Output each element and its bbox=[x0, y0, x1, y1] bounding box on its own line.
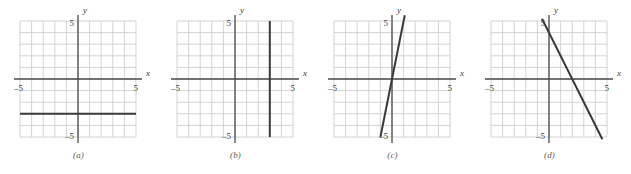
coordinate-plane: –555–5xy bbox=[471, 0, 628, 150]
y-min-tick-label: –5 bbox=[535, 131, 546, 141]
y-axis-label: y bbox=[396, 5, 401, 15]
graph-panel-2: –555–5xy(b) bbox=[157, 0, 314, 174]
y-min-tick-label: –5 bbox=[64, 131, 75, 141]
x-max-tick-label: 5 bbox=[448, 83, 453, 93]
x-axis-label: x bbox=[616, 68, 621, 78]
graph-panel-1: –555–5xy(a) bbox=[0, 0, 157, 174]
plot-svg: –555–5xy bbox=[471, 0, 628, 150]
axes bbox=[14, 15, 142, 143]
x-max-tick-label: 5 bbox=[134, 83, 139, 93]
y-axis-label: y bbox=[239, 5, 244, 15]
x-max-tick-label: 5 bbox=[291, 83, 296, 93]
x-min-tick-label: –5 bbox=[484, 83, 495, 93]
panel-caption: (c) bbox=[314, 150, 471, 160]
four-graph-figure: –555–5xy(a)–555–5xy(b)–555–5xy(c)–555–5x… bbox=[0, 0, 631, 174]
y-min-tick-label: –5 bbox=[378, 131, 389, 141]
x-max-tick-label: 5 bbox=[605, 83, 610, 93]
x-axis-label: x bbox=[145, 68, 150, 78]
y-max-tick-label: 5 bbox=[70, 18, 75, 28]
y-max-tick-label: 5 bbox=[541, 18, 546, 28]
panel-caption: (a) bbox=[0, 150, 157, 160]
x-min-tick-label: –5 bbox=[13, 83, 24, 93]
x-axis-label: x bbox=[302, 68, 307, 78]
y-min-tick-label: –5 bbox=[221, 131, 232, 141]
x-axis-label: x bbox=[459, 68, 464, 78]
coordinate-plane: –555–5xy bbox=[314, 0, 471, 150]
y-max-tick-label: 5 bbox=[227, 18, 232, 28]
coordinate-plane: –555–5xy bbox=[157, 0, 314, 150]
graph-panel-3: –555–5xy(c) bbox=[314, 0, 471, 174]
y-axis-label: y bbox=[82, 5, 87, 15]
plot-svg: –555–5xy bbox=[157, 0, 314, 150]
axes bbox=[171, 15, 299, 143]
panel-caption: (b) bbox=[157, 150, 314, 160]
plot-svg: –555–5xy bbox=[314, 0, 471, 150]
panel-caption: (d) bbox=[471, 150, 628, 160]
plot-svg: –555–5xy bbox=[0, 0, 157, 150]
graph-panel-4: –555–5xy(d) bbox=[471, 0, 628, 174]
x-min-tick-label: –5 bbox=[327, 83, 338, 93]
coordinate-plane: –555–5xy bbox=[0, 0, 157, 150]
x-min-tick-label: –5 bbox=[170, 83, 181, 93]
y-axis-label: y bbox=[553, 5, 558, 15]
y-max-tick-label: 5 bbox=[384, 18, 389, 28]
